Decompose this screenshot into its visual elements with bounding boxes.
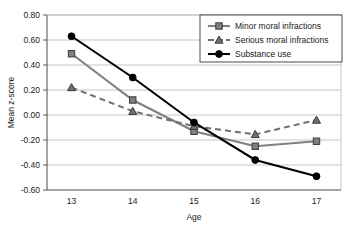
data-point-circle-marker <box>252 157 259 164</box>
legend-label: Serious moral infractions <box>235 35 329 45</box>
x-tick-label: 17 <box>312 196 322 206</box>
y-tick-label: 0.60 <box>23 35 40 45</box>
x-tick-label: 16 <box>251 196 261 206</box>
x-tick-label: 14 <box>128 196 138 206</box>
chart-container: 0.800.600.400.200.00-0.20-0.40-0.6013141… <box>0 0 350 230</box>
y-axis-title: Mean z-score <box>6 76 16 128</box>
data-point-square-marker <box>68 51 74 57</box>
line-chart: 0.800.600.400.200.00-0.20-0.40-0.6013141… <box>0 0 350 230</box>
legend-label: Substance use <box>235 49 292 59</box>
data-point-circle-marker <box>68 33 75 40</box>
y-tick-label: -0.20 <box>21 135 41 145</box>
data-point-square-marker <box>252 143 258 149</box>
y-tick-label: 0.80 <box>23 10 40 20</box>
x-tick-label: 13 <box>67 196 77 206</box>
y-tick-label: -0.40 <box>21 160 41 170</box>
data-point-circle-marker <box>313 173 320 180</box>
legend-label: Minor moral infractions <box>235 21 321 31</box>
y-tick-label: 0.40 <box>23 60 40 70</box>
y-tick-label: -0.60 <box>21 185 41 195</box>
y-tick-label: 0.20 <box>23 85 40 95</box>
legend: Minor moral infractionsSerious moral inf… <box>200 15 342 62</box>
data-point-circle-marker <box>216 51 223 58</box>
data-point-circle-marker <box>191 119 198 126</box>
data-point-square-marker <box>216 23 222 29</box>
y-tick-label: 0.00 <box>23 110 40 120</box>
data-point-circle-marker <box>129 74 136 81</box>
data-point-square-marker <box>313 138 319 144</box>
x-axis-title: Age <box>186 212 201 222</box>
data-point-square-marker <box>130 97 136 103</box>
x-tick-label: 15 <box>189 196 199 206</box>
